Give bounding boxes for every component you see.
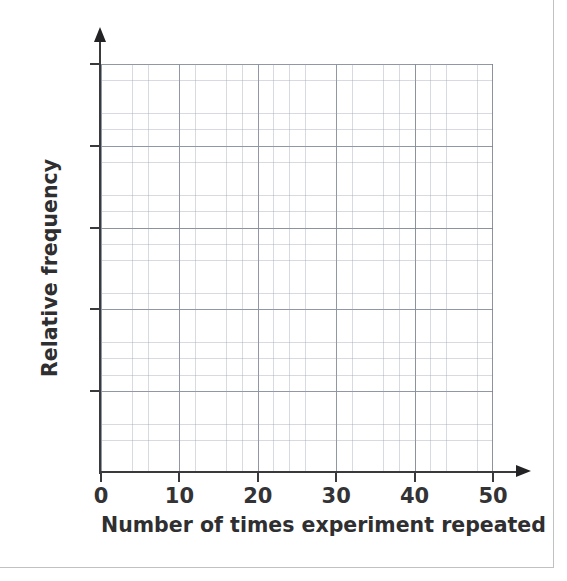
x-axis-tick	[100, 471, 102, 482]
grid-edge-right	[492, 64, 493, 474]
y-axis-tick	[90, 227, 101, 229]
chart-figure: 01020304050 Number of times experiment r…	[0, 0, 567, 581]
x-axis-tick-label: 50	[463, 483, 523, 509]
x-axis-arrow-icon	[516, 465, 531, 477]
x-axis-tick-label: 20	[228, 483, 288, 509]
x-axis-tick	[178, 471, 180, 482]
worksheet-page: 01020304050 Number of times experiment r…	[0, 0, 567, 581]
x-axis-tick-label: 10	[149, 483, 209, 509]
x-axis-tick	[492, 471, 494, 482]
y-axis-tick	[90, 308, 101, 310]
y-axis-tick	[90, 145, 101, 147]
y-axis-tick	[90, 63, 101, 65]
x-axis-tick	[414, 471, 416, 482]
x-axis-title: Number of times experiment repeated	[101, 512, 493, 538]
x-axis-tick-label: 30	[306, 483, 366, 509]
x-axis-tick-label: 0	[71, 483, 131, 509]
x-axis-tick	[257, 471, 259, 482]
x-axis-tick-label: 40	[385, 483, 445, 509]
x-axis-line	[99, 471, 519, 473]
y-axis-title: Relative frequency	[37, 118, 63, 418]
y-axis-arrow-icon	[94, 27, 106, 42]
x-axis-tick	[335, 471, 337, 482]
y-axis-line	[99, 40, 101, 474]
y-axis-tick	[90, 390, 101, 392]
chart-grid-panel	[101, 64, 493, 473]
